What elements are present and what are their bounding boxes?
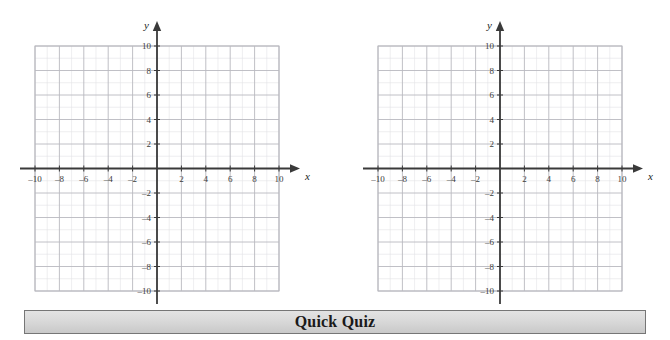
- y-tick-label: –2: [141, 188, 151, 198]
- x-tick-label: –2: [127, 174, 137, 184]
- y-tick-label: 2: [147, 139, 152, 149]
- x-tick-label: 8: [595, 174, 600, 184]
- x-tick-label: –8: [54, 174, 65, 184]
- coordinate-grid-left-svg: –10–8–6–4–2246810108642–2–4–6–8–10xy: [0, 0, 335, 305]
- y-tick-label: –6: [484, 237, 495, 247]
- y-tick-label: 8: [147, 66, 152, 76]
- coordinate-grid-left[interactable]: –10–8–6–4–2246810108642–2–4–6–8–10xy: [0, 0, 335, 305]
- y-tick-label: –2: [484, 188, 494, 198]
- x-tick-label: –4: [446, 174, 457, 184]
- x-tick-label: –10: [370, 174, 385, 184]
- x-tick-label: 4: [547, 174, 552, 184]
- y-tick-label: 6: [490, 90, 495, 100]
- x-axis-label: x: [304, 170, 310, 182]
- y-axis-label: y: [143, 19, 149, 31]
- x-tick-label: –2: [470, 174, 480, 184]
- y-tick-label: 10: [485, 41, 495, 51]
- y-tick-label: 2: [490, 139, 495, 149]
- worksheet-page: –10–8–6–4–2246810108642–2–4–6–8–10xy –10…: [0, 0, 670, 340]
- x-tick-label: 10: [275, 174, 285, 184]
- y-tick-label: 4: [147, 115, 152, 125]
- x-tick-label: –8: [397, 174, 408, 184]
- y-tick-label: –8: [141, 262, 152, 272]
- y-tick-label: 10: [142, 41, 152, 51]
- coordinate-grid-right[interactable]: –10–8–6–4–2246810108642–2–4–6–8–10xy: [343, 0, 670, 305]
- y-tick-label: –8: [484, 262, 495, 272]
- quick-quiz-banner: Quick Quiz: [24, 310, 646, 334]
- x-tick-label: 10: [618, 174, 628, 184]
- y-tick-label: 4: [490, 115, 495, 125]
- y-tick-label: –4: [484, 213, 495, 223]
- x-tick-label: 2: [179, 174, 184, 184]
- y-tick-label: –10: [137, 286, 152, 296]
- x-tick-label: –10: [27, 174, 42, 184]
- y-tick-label: 8: [490, 66, 495, 76]
- y-axis-label: y: [486, 19, 492, 31]
- y-axis-arrow-icon: [153, 21, 161, 31]
- x-tick-label: –6: [78, 174, 89, 184]
- y-tick-label: 6: [147, 90, 152, 100]
- x-axis-arrow-icon: [633, 164, 643, 172]
- x-tick-label: –6: [421, 174, 432, 184]
- x-tick-label: 8: [252, 174, 257, 184]
- x-tick-label: 4: [204, 174, 209, 184]
- coordinate-grid-right-svg: –10–8–6–4–2246810108642–2–4–6–8–10xy: [343, 0, 670, 305]
- x-tick-label: 6: [571, 174, 576, 184]
- x-axis-arrow-icon: [290, 164, 300, 172]
- x-tick-label: 6: [228, 174, 233, 184]
- x-tick-label: 2: [522, 174, 527, 184]
- y-tick-label: –6: [141, 237, 152, 247]
- quick-quiz-title: Quick Quiz: [295, 314, 376, 330]
- y-tick-label: –4: [141, 213, 152, 223]
- y-tick-label: –10: [480, 286, 495, 296]
- y-axis-arrow-icon: [496, 21, 504, 31]
- x-axis-label: x: [647, 170, 653, 182]
- x-tick-label: –4: [103, 174, 114, 184]
